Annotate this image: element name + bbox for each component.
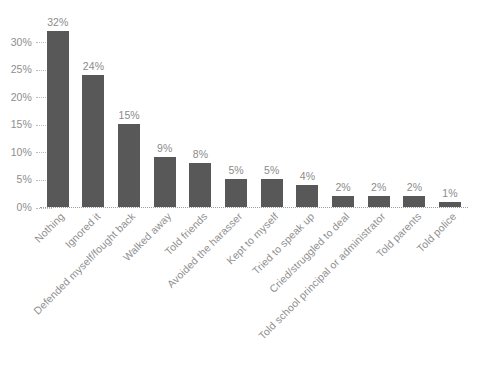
bar-slot: 5% — [218, 14, 254, 207]
bar-slot: 4% — [290, 14, 326, 207]
bar-value-label: 32% — [40, 16, 76, 28]
bar-value-label: 1% — [432, 187, 468, 199]
y-axis-tick-label: 15% — [11, 118, 32, 130]
bar — [261, 179, 283, 207]
bar-slot: 32% — [40, 14, 76, 207]
bar — [332, 196, 354, 207]
bar — [368, 196, 390, 207]
y-axis-tick-label: 0% — [17, 201, 32, 213]
y-axis-tick-label: 5% — [17, 173, 32, 185]
bar-chart: 0%5%10%15%20%25%30% 32%24%15%9%8%5%5%4%2… — [0, 0, 482, 366]
bar — [82, 75, 104, 207]
bar — [118, 124, 140, 207]
bar-slot: 2% — [361, 14, 397, 207]
x-axis-baseline — [40, 207, 468, 208]
y-axis-tick-label: 25% — [11, 63, 32, 75]
bar-value-label: 4% — [290, 170, 326, 182]
bar-slot: 8% — [183, 14, 219, 207]
bar-value-label: 5% — [218, 164, 254, 176]
bar-slot: 9% — [147, 14, 183, 207]
bar-value-label: 2% — [325, 181, 361, 193]
bar-value-label: 5% — [254, 164, 290, 176]
bar — [189, 163, 211, 207]
bar-slot: 5% — [254, 14, 290, 207]
bar-value-label: 2% — [361, 181, 397, 193]
bar-slot: 24% — [76, 14, 112, 207]
bar — [154, 157, 176, 207]
bar-value-label: 2% — [397, 181, 433, 193]
bar-slot: 1% — [432, 14, 468, 207]
y-axis-tick-label: 30% — [11, 36, 32, 48]
bar-value-label: 15% — [111, 109, 147, 121]
bar-slot: 2% — [325, 14, 361, 207]
y-axis-tick-label: 10% — [11, 146, 32, 158]
bar-series: 32%24%15%9%8%5%5%4%2%2%2%1% — [40, 14, 468, 207]
bar — [47, 31, 69, 207]
bar-slot: 2% — [397, 14, 433, 207]
x-axis-category-label: Tried to speak up — [249, 210, 316, 277]
bar-slot: 15% — [111, 14, 147, 207]
bar — [296, 185, 318, 207]
y-axis-tick-label: 20% — [11, 91, 32, 103]
bar — [439, 202, 461, 208]
x-axis-category-labels: NothingIgnored itDefended myself/fought … — [40, 210, 468, 366]
bar-value-label: 24% — [76, 60, 112, 72]
bar-value-label: 9% — [147, 142, 183, 154]
bar — [403, 196, 425, 207]
bar-value-label: 8% — [183, 148, 219, 160]
bar — [225, 179, 247, 207]
